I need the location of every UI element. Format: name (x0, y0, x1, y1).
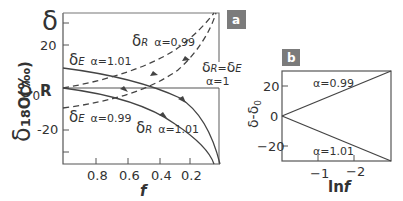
b-x-tick-minus-1: −1 (310, 166, 329, 181)
annotation-b-alpha-0.99: α=0.99 (313, 77, 354, 90)
annotation-dE-alpha-0.99: δEα=0.99 (69, 108, 131, 126)
b-y-tick-minus-20: −20 (257, 139, 284, 154)
svg-text:a: a (232, 13, 240, 27)
b-x-axis-label: lnf (328, 178, 353, 196)
x-tick-0.6: 0.6 (119, 168, 140, 183)
annotation-dR-alpha-0.99: δRα=0.99 (132, 32, 195, 50)
series-dR-alpha-0.99 (63, 13, 214, 88)
x-axis-label: f (140, 182, 149, 200)
annotation-alpha-1: α=1 (206, 75, 229, 88)
y-tick-minus-20: -20 (37, 122, 58, 137)
b-y-axis-label: δ-δ0 (245, 100, 263, 128)
series-dE-alpha-1.01 (63, 68, 220, 164)
x-tick-0.2: 0.2 (181, 168, 202, 183)
series-dE-alpha-0.99 (63, 13, 216, 108)
annotation-dR-alpha-1.01: δRα=1.01 (136, 119, 199, 137)
y-axis-label: δ18O(‰) (8, 61, 36, 142)
panel-b-badge-label: b (287, 51, 296, 65)
y-axis-top-label: δ (42, 6, 58, 36)
annotation-dR-equals-dE: δR=δE (202, 59, 242, 75)
x-tick-0.4: 0.4 (151, 168, 172, 183)
panel-b: b α=0.99 α=1.01 20 0 −20 δ-δ0 −1 −2 lnf (245, 49, 391, 196)
figure: δ 20 -20 δ0R δ18O(‰) 0.8 0.6 0.4 0.2 f δ… (0, 0, 403, 201)
annotation-dE-alpha-1.01: δEα=1.01 (69, 51, 131, 69)
b-y-tick-0: 0 (270, 109, 278, 124)
panel-a-x-ticks (96, 158, 190, 164)
annotation-b-alpha-1.01: α=1.01 (313, 145, 354, 158)
b-y-tick-20: 20 (263, 79, 280, 94)
b-x-tick-minus-2: −2 (346, 164, 365, 179)
x-tick-0.8: 0.8 (87, 168, 108, 183)
y-tick-20: 20 (40, 38, 57, 53)
panel-a-badge: a (227, 10, 246, 29)
panel-a: δ 20 -20 δ0R δ18O(‰) 0.8 0.6 0.4 0.2 f δ… (8, 6, 246, 200)
